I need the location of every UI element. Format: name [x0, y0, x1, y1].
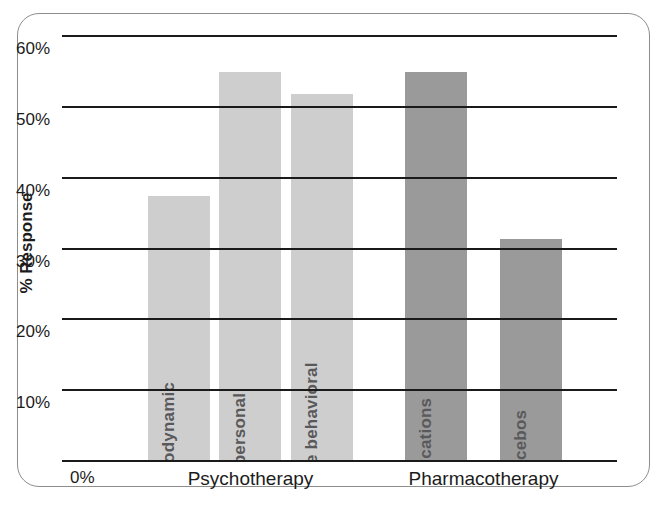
bar-interpersonal: Interpersonal — [219, 72, 281, 462]
gridline-10 — [62, 389, 617, 391]
bar-label: Medications — [416, 398, 436, 462]
chart-figure: % Response PsychodynamicInterpersonalCog… — [0, 0, 670, 513]
bar-placebos: Placebos — [500, 239, 562, 462]
gridline-20 — [62, 318, 617, 320]
y-tick-label-20: 20% — [16, 322, 50, 342]
gridline-40 — [62, 177, 617, 179]
y-tick-label-50: 50% — [16, 110, 50, 130]
gridline-30 — [62, 248, 617, 250]
gridline-0 — [62, 460, 617, 462]
y-tick-label-0: 0% — [70, 468, 95, 488]
bar-label: Interpersonal — [230, 393, 250, 462]
y-axis-title-text: % Response — [17, 192, 37, 293]
y-tick-label-10: 10% — [16, 393, 50, 413]
gridline-50 — [62, 106, 617, 108]
bar-label: Cognitive behavioral — [302, 362, 322, 462]
plot-area: PsychodynamicInterpersonalCognitive beha… — [62, 37, 617, 462]
bar-medications: Medications — [405, 72, 467, 462]
group-label-psychotherapy: Psychotherapy — [141, 468, 361, 490]
y-tick-label-40: 40% — [16, 181, 50, 201]
y-tick-label-30: 30% — [16, 252, 50, 272]
group-label-pharmacotherapy: Pharmacotherapy — [374, 468, 594, 490]
bar-psychodynamic: Psychodynamic — [148, 196, 210, 462]
gridline-60 — [62, 35, 617, 37]
bar-label: Psychodynamic — [159, 382, 179, 462]
y-tick-label-60: 60% — [16, 39, 50, 59]
bar-label: Placebos — [511, 410, 531, 462]
bar-cognitive-behavioral: Cognitive behavioral — [291, 94, 353, 462]
